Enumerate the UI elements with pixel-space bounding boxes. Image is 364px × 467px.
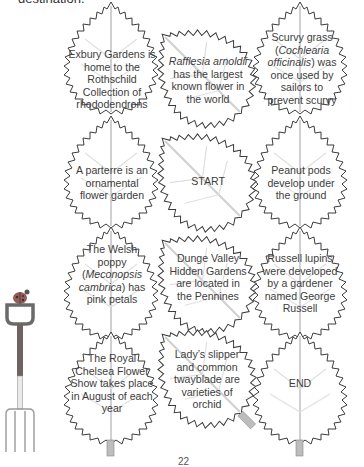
leaf-text-r3c1: The Welsh poppy (Meconopsis cambrica) ha… <box>72 243 152 306</box>
leaf-text-r3c2: Dunge Valley Hidden Gardens are located … <box>168 252 248 302</box>
leaf-text-r4c1: The Royal Chelsea Flower Show takes plac… <box>68 352 156 415</box>
ladybird-icon <box>13 290 30 305</box>
leaf-text-r3c3: Russell lupins were developed by a garde… <box>258 252 342 315</box>
leaf-text-r1c3: Scurvy grass (Cochlearia officinalis) wa… <box>262 31 342 107</box>
leaf-text-r2c3: Peanut pods develop under the ground <box>262 164 340 202</box>
leaf-text-r1c2: Rafflesia arnoldii has the largest known… <box>164 55 252 105</box>
garden-fork-icon <box>6 305 34 452</box>
leaf-stem <box>107 440 114 456</box>
leaf-stem <box>296 440 303 456</box>
leaf-text-r2c1: A parterre is an ornamental flower garde… <box>72 164 152 202</box>
leaf-stem <box>238 411 256 429</box>
page-number: 22 <box>178 456 189 467</box>
leaf-text-r4c3[interactable]: END <box>276 377 324 390</box>
leaf-text-r2c2[interactable]: START <box>176 175 240 188</box>
leaf-text-r4c2: Lady’s slipper and common twayblade are … <box>168 348 246 411</box>
leaf-text-r1c1: Exbury Gardens is home to the Rothschild… <box>66 48 158 111</box>
